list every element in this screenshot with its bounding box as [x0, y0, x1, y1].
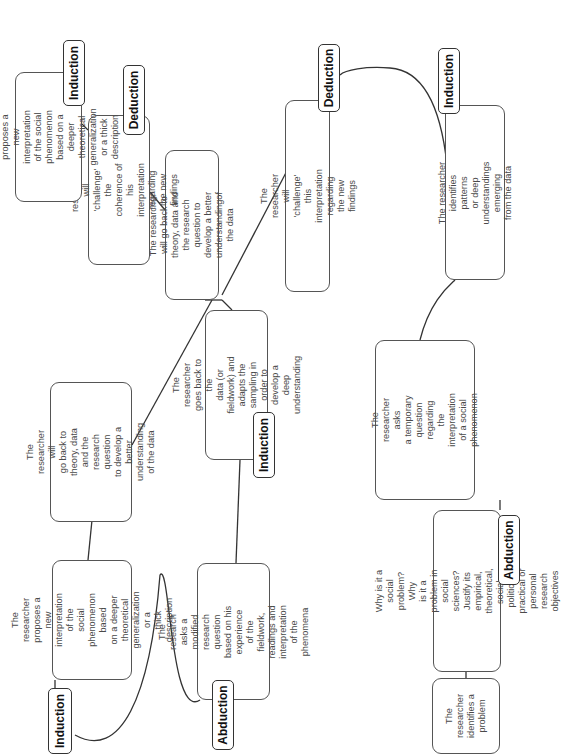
node-text: The researcher proposes a new interpreta… [10, 591, 175, 648]
node-text: The researcher will go back to theory, d… [25, 423, 157, 481]
tag-induction-right: Induction [438, 48, 460, 114]
node-modified-question: The research asks a modified research qu… [197, 563, 270, 700]
tag-text: Induction [53, 694, 67, 748]
node-text: The researcher will 'challenge' this int… [258, 169, 357, 223]
node-text: Why is it a social problem? Why is it a … [374, 569, 561, 614]
tag-text: Induction [67, 46, 81, 100]
tag-abduction-bottom: Abduction [498, 515, 520, 585]
tag-text: Induction [257, 418, 271, 472]
tag-text: Deduction [127, 71, 141, 130]
link-data-modified [236, 460, 240, 563]
tag-text: Deduction [322, 49, 336, 108]
link-theorylower-proposeslower [88, 520, 92, 560]
node-text: The researcher proposes a new interpreta… [0, 108, 120, 165]
node-text: The researcher goes back to the data (or… [171, 356, 303, 414]
node-temporary-question: The researcher asks a temporary question… [375, 340, 475, 500]
link-patterns-challenge [340, 67, 447, 165]
node-proposes-lower: The researcher proposes a new interpreta… [52, 560, 132, 680]
link-temporary-patterns [420, 280, 455, 340]
node-text: The research asks a modified research qu… [157, 605, 311, 659]
tag-text: Abduction [502, 520, 516, 579]
node-why-social-problem: Why is it a social problem? Why is it a … [433, 510, 501, 672]
node-challenge-this: The researcher will 'challenge' this int… [285, 100, 330, 292]
node-identifies-problem: The researcher identifies a problem [432, 678, 500, 754]
node-back-to-theory-lower: The researcher will go back to theory, d… [50, 382, 132, 522]
tag-text: Induction [442, 54, 456, 108]
tag-induction-lower: Induction [48, 688, 72, 754]
link-hub-data [222, 300, 232, 310]
tag-abduction-lower: Abduction [212, 680, 234, 750]
tag-induction-mid: Induction [253, 412, 275, 478]
tag-deduction-upper: Deduction [123, 65, 145, 135]
node-identifies-patterns: The researcher identifies patterns or de… [445, 105, 505, 280]
node-text: The researcher asks a temporary question… [370, 393, 480, 447]
tag-text: Abduction [216, 685, 230, 744]
node-text: The researcher identifies patterns or de… [437, 161, 514, 224]
tag-induction-upper: Induction [63, 40, 85, 106]
node-text: The researcher identifies a problem [444, 694, 488, 738]
tag-deduction-right: Deduction [318, 44, 340, 112]
